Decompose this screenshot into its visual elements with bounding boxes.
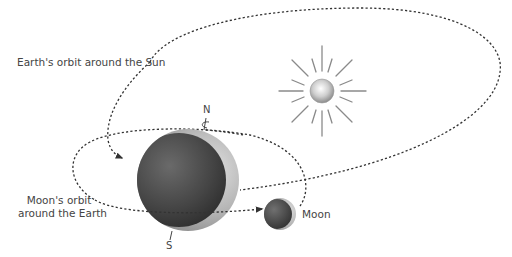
sun-icon [279,46,366,136]
earth-orbit-path-arrow [108,62,150,158]
moon-orbit-label-line2: around the Earth [18,207,100,220]
moon-orbit-label-line1: Moon's orbit [18,194,100,207]
earth-orbit-label: Earth's orbit around the Sun [17,56,165,69]
moon-orbit-label: Moon's orbit around the Earth [18,194,100,220]
north-pole-label: N [203,104,210,115]
moon-icon [262,198,296,230]
moon-label: Moon [302,208,331,221]
south-pole-label: S [166,240,172,251]
earth-icon [132,129,239,231]
